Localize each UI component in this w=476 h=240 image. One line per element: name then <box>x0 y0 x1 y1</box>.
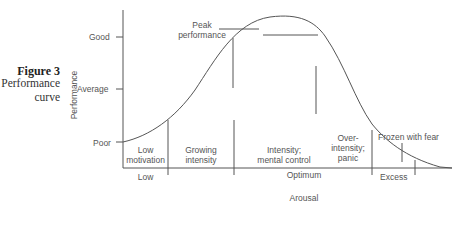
figure-caption-line1: Performance <box>0 77 60 89</box>
peak-label-line2: performance <box>168 30 236 40</box>
tick-label-average: Average <box>77 84 109 94</box>
tick-label-good: Good <box>89 32 110 42</box>
zone-low-motivation: Low motivation <box>123 145 168 165</box>
x-axis-label: Arousal <box>234 193 374 203</box>
y-axis-label: Performance <box>69 65 79 125</box>
range-excess: Excess <box>380 172 407 182</box>
figure-caption-line2: curve <box>0 91 60 103</box>
range-optimum: Optimum <box>234 170 374 180</box>
zone-frozen-with-fear: Frozen with fear <box>378 132 439 142</box>
zone-intensity-mental-control: Intensity; mental control <box>234 145 334 165</box>
zone-growing-intensity: Growing intensity <box>168 145 234 165</box>
zone-over-intensity-panic: Over- intensity; panic <box>322 133 374 163</box>
peak-label-line1: Peak <box>168 20 236 30</box>
range-low: Low <box>123 172 168 182</box>
peak-label: Peak performance <box>168 20 236 40</box>
tick-label-poor: Poor <box>93 138 111 148</box>
